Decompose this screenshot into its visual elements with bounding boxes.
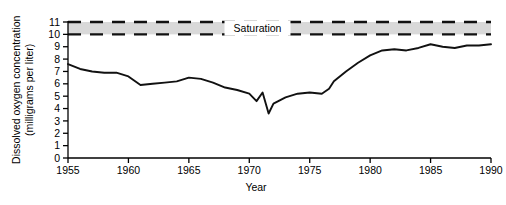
chart-figure: Dissolved oxygen concentration (milligra… <box>0 0 506 205</box>
chart-canvas: Saturation012345678910111955196019651970… <box>46 0 506 205</box>
y-axis-title-line1: Dissolved oxygen concentration <box>10 16 23 164</box>
y-axis-title: Dissolved oxygen concentration (milligra… <box>0 0 46 180</box>
x-tick-label: 1965 <box>177 164 201 176</box>
x-tick-label: 1980 <box>358 164 382 176</box>
y-tick-label: 6 <box>54 77 60 89</box>
y-tick-label: 11 <box>49 16 60 28</box>
y-tick-label: 8 <box>54 53 60 65</box>
y-axis-title-line2: (milligrams per liter) <box>23 16 36 164</box>
y-tick-label: 9 <box>54 40 60 52</box>
x-tick-label: 1985 <box>419 164 443 176</box>
y-tick-label: 4 <box>54 102 60 114</box>
y-tick-label: 5 <box>54 90 60 102</box>
x-axis-title: Year <box>46 181 466 193</box>
y-tick-label: 7 <box>54 65 60 77</box>
saturation-label: Saturation <box>234 22 282 34</box>
x-tick-label: 1975 <box>298 164 322 176</box>
y-tick-label: 0 <box>54 152 60 164</box>
plot-area: Saturation012345678910111955196019651970… <box>46 0 506 205</box>
x-tick-label: 1960 <box>117 164 141 176</box>
y-tick-label: 1 <box>54 139 60 151</box>
y-tick-label: 3 <box>54 115 60 127</box>
x-tick-label: 1970 <box>238 164 262 176</box>
x-tick-label: 1955 <box>56 164 80 176</box>
y-tick-label: 2 <box>54 127 60 139</box>
y-tick-label: 10 <box>48 28 60 40</box>
data-line-series <box>68 44 491 113</box>
x-tick-label: 1990 <box>479 164 503 176</box>
